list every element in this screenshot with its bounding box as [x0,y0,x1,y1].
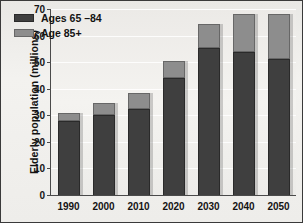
y-axis-tick-label: 50 [34,57,45,68]
x-axis-tick-label: 2010 [127,201,149,212]
y-axis-tick-label: 10 [34,163,45,174]
bar-segment-age-85-plus [128,93,150,109]
figure-frame: Elderly population (millions) 0102030405… [0,0,303,223]
y-axis-tick-label: 20 [34,136,45,147]
tick-mark [47,115,51,116]
bar-segment-ages-65-84 [233,52,255,195]
bar-segment-ages-65-84 [198,48,220,195]
y-axis-tick-label: 40 [34,83,45,94]
bar-segment-ages-65-84 [268,59,290,195]
y-axis-tick-label: 30 [34,110,45,121]
bar-group: 2040 [233,9,255,195]
legend-label: Ages 65 –84 [41,12,102,24]
bar-shadow [150,93,153,195]
dark-swatch-icon [14,14,34,22]
legend-label: Age 85+ [41,27,82,39]
tick-mark [47,195,51,196]
tick-mark [47,168,51,169]
chart-page: Elderly population (millions) 0102030405… [0,0,303,223]
x-axis-tick-label: 2030 [197,201,219,212]
bar-group: 2050 [268,9,290,195]
bar-shadow [220,24,223,195]
bar-group: 2010 [128,9,150,195]
bar-shadow [80,113,83,195]
bar-segment-age-85-plus [93,103,115,115]
x-axis-tick-label: 1990 [57,201,79,212]
bar-segment-age-85-plus [233,14,255,51]
bar-segment-age-85-plus [198,24,220,48]
bar-shadow [255,14,258,195]
x-axis-tick-label: 2050 [267,201,289,212]
bar-group: 2020 [163,9,185,195]
bar-shadow [290,14,293,195]
bar-shadow [115,103,118,195]
tick-mark [47,89,51,90]
bar-segment-ages-65-84 [93,115,115,195]
legend-item-age-85-plus: Age 85+ [14,25,102,40]
bar-segment-age-85-plus [268,14,290,59]
legend: Ages 65 –84 Age 85+ [10,8,108,43]
bar-segment-ages-65-84 [128,109,150,195]
bar-group: 2030 [198,9,220,195]
tick-mark [47,142,51,143]
legend-item-ages-65-84: Ages 65 –84 [14,10,102,25]
y-axis-tick-label: 0 [39,190,45,201]
bar-segment-ages-65-84 [163,78,185,195]
light-swatch-icon [14,29,34,37]
tick-mark [47,62,51,63]
bar-segment-age-85-plus [163,61,185,78]
x-axis-tick-label: 2020 [162,201,184,212]
bar-segment-ages-65-84 [58,121,80,195]
x-axis-tick-label: 2040 [232,201,254,212]
x-axis-tick-label: 2000 [92,201,114,212]
bar-segment-age-85-plus [58,113,80,121]
bar-shadow [185,61,188,195]
